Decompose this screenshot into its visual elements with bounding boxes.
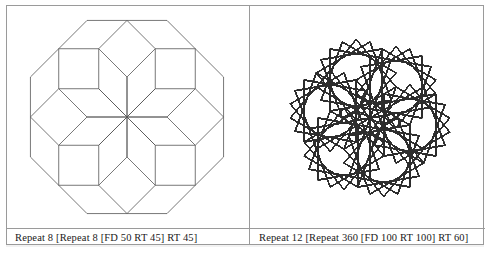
figure-area-left [7, 6, 249, 228]
caption-right: Repeat 12 [Repeat 360 [FD 100 RT 100] RT… [250, 229, 485, 246]
figure-box: Repeat 8 [Repeat 8 [FD 50 RT 45] RT 45] … [6, 5, 484, 245]
turtle-trace-5 [30, 49, 127, 146]
turtle-trace-1 [127, 89, 224, 186]
turtle-trace-0 [127, 49, 224, 146]
turtle-trace-4 [30, 89, 127, 186]
turtle-trace-3 [59, 117, 156, 214]
panel-left: Repeat 8 [Repeat 8 [FD 50 RT 45] RT 45] [7, 6, 249, 246]
caption-left: Repeat 8 [Repeat 8 [FD 50 RT 45] RT 45] [7, 229, 249, 246]
turtle-trace-7 [99, 20, 196, 117]
twelve-square-rosette-figure [250, 6, 485, 228]
eight-octagon-rosette-figure [7, 6, 249, 228]
turtle-trace-6 [59, 20, 156, 117]
figure-page: Repeat 8 [Repeat 8 [FD 50 RT 45] RT 45] … [0, 0, 491, 260]
turtle-trace-2 [99, 117, 196, 214]
panel-right: Repeat 12 [Repeat 360 [FD 100 RT 100] RT… [250, 6, 485, 246]
figure-area-right [250, 6, 485, 228]
page-edge-shadow [6, 245, 484, 247]
